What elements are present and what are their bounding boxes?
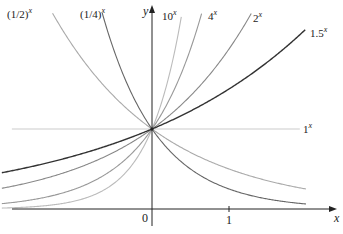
intersection-point: [150, 127, 153, 130]
curve-label: 2x: [253, 10, 263, 24]
curve-10-x: [2, 17, 181, 208]
y-axis-arrow-icon: [149, 5, 155, 13]
curve-label: (1/2)x: [7, 6, 32, 21]
curve-labels-group: (1/2)x(1/4)x10x4x2x1.5x1x: [7, 6, 328, 135]
curve-label: 1.5x: [310, 25, 328, 39]
curves-group: [2, 13, 306, 208]
y-axis-label: y: [142, 4, 149, 18]
exponential-functions-chart: x y 0 1 (1/2)x(1/4)x10x4x2x1.5x1x: [0, 0, 343, 234]
curve-label: 1x: [303, 121, 313, 135]
x-axis-label: x: [333, 211, 340, 225]
curve--1-4-x: [102, 13, 306, 204]
origin-tick-label: 0: [142, 211, 148, 225]
x-tick-label-1: 1: [226, 213, 232, 227]
curve-1.5-x: [2, 30, 305, 173]
curve-4-x: [2, 14, 202, 204]
curve-label: 10x: [162, 8, 177, 22]
curve-2-x: [2, 14, 251, 189]
curve-label: 4x: [208, 8, 218, 22]
curve-label: (1/4)x: [80, 6, 105, 21]
